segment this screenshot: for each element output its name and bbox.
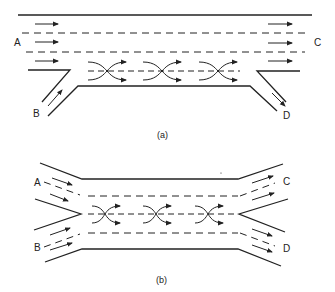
- arrow-icon: [252, 245, 272, 252]
- lane-divider: [44, 234, 80, 247]
- label-c-top: C: [314, 38, 321, 48]
- road-edge-bottom: [48, 86, 277, 116]
- gore-left: [34, 199, 81, 230]
- arrow-icon: [252, 229, 272, 236]
- lane-divider: [44, 182, 80, 195]
- label-d-bottom: D: [283, 244, 290, 254]
- arrow-icon: [50, 228, 70, 235]
- arrow-icon: [252, 193, 274, 200]
- diagram-a: [18, 15, 312, 116]
- label-a-bottom: A: [34, 178, 41, 188]
- label-d-top: D: [283, 111, 290, 121]
- caption-b: (b): [156, 276, 167, 285]
- stray-dot: [220, 172, 221, 173]
- on-ramp-b-edge-outer: [28, 70, 70, 102]
- arrow-icon: [252, 176, 273, 183]
- label-b-top: B: [33, 109, 40, 119]
- off-ramp-d-edge: [257, 71, 300, 102]
- road-edge-bottom: [45, 249, 281, 266]
- arrow-icon: [50, 243, 72, 250]
- label-b-bottom: B: [34, 243, 41, 253]
- arrow-icon: [52, 178, 72, 185]
- gore-right: [239, 199, 288, 232]
- road-edge-top: [40, 163, 283, 179]
- arrow-icon: [50, 194, 68, 201]
- label-a-top: A: [14, 38, 21, 48]
- weaving-crossing-icon: [143, 206, 171, 223]
- weaving-crossing-icon: [92, 206, 120, 223]
- caption-a: (a): [157, 131, 168, 140]
- diagram-b: [34, 163, 288, 266]
- label-c-bottom: C: [283, 177, 290, 187]
